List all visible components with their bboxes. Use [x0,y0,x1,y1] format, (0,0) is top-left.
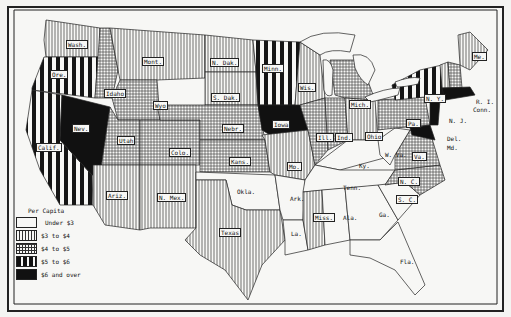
state-mass [442,87,475,100]
label-wash: Wash. [66,40,88,49]
label-ga: Ga. [378,211,391,218]
label-miss: Miss. [313,213,335,222]
state-wyo [112,80,160,120]
label-ny: N. Y. [424,94,446,103]
state-me [458,32,488,70]
label-nev: Nev. [72,124,90,133]
label-wis: Wis. [298,83,316,92]
label-nmex: N. Mex. [157,193,186,202]
label-va: Va. [412,152,427,161]
swatch-thick-stripe-icon [16,256,37,267]
label-pa: Pa. [406,119,421,128]
label-wva: W. Va. [384,151,408,158]
label-kans: Kans. [229,157,251,166]
label-ariz: Ariz. [106,191,128,200]
state-nj [430,100,440,125]
label-okla: Okla. [236,188,256,195]
state-pa [378,97,430,130]
label-ala: Ala. [342,214,358,221]
label-ri: R. I. [475,98,495,105]
label-sdak: S. Dak. [211,93,240,102]
label-colo: Colo. [169,148,191,157]
label-texas: Texas [219,228,241,237]
legend-item-6-and-over: $6 and over [16,268,88,281]
label-ore: Ore. [50,70,68,79]
label-idaho: Idaho [104,89,126,98]
label-ill: Ill. [316,133,334,142]
label-utah: Utah [117,136,135,145]
state-nh [448,62,462,88]
label-minn: Minn. [262,64,284,73]
label-fla: Fla. [399,258,415,265]
state-colo [140,120,200,165]
lake-michigan [323,60,333,96]
swatch-solid-icon [16,269,37,280]
label-nebr: Nebr. [222,124,244,133]
label-md: Md. [446,144,459,151]
state-wash [44,20,100,57]
label-nc: N. C. [398,177,420,186]
legend-item-under-3: Under $3 [16,216,88,229]
legend-item-4-to-5: $4 to $5 [16,242,88,255]
label-sc: S. C. [396,195,418,204]
label-calif: Calif. [36,143,62,152]
state-mont [110,28,205,80]
label-del: Del. [446,135,462,142]
label-la: La. [290,230,303,237]
label-me: Me. [472,52,487,61]
label-tenn: Tenn. [342,184,362,191]
label-ind: Ind. [335,133,353,142]
legend-item-3-to-4: $3 to $4 [16,229,88,242]
label-ohio: Ohio [365,132,383,141]
legend-title: Per Capita [28,207,88,214]
swatch-blank-icon [16,217,37,228]
label-mo: Mo. [287,162,302,171]
label-iowa: Iowa [272,120,290,129]
swatch-grid-icon [16,243,37,254]
label-conn: Conn. [472,106,492,113]
label-ndak: N. Dak. [210,58,239,67]
label-ark: Ark. [289,195,305,202]
label-nj: N. J. [448,117,468,124]
label-mont: Mont. [142,57,164,66]
label-ky: Ky. [358,162,371,169]
label-mich: Mich. [349,100,371,109]
legend-item-5-to-6: $5 to $6 [16,255,88,268]
state-kans [200,140,270,172]
swatch-vertical-icon [16,230,37,241]
state-mo [262,130,315,180]
map-legend: Per Capita Under $3 $3 to $4 $4 to $5 $5… [16,207,88,281]
label-wyo: Wyo [153,101,168,110]
